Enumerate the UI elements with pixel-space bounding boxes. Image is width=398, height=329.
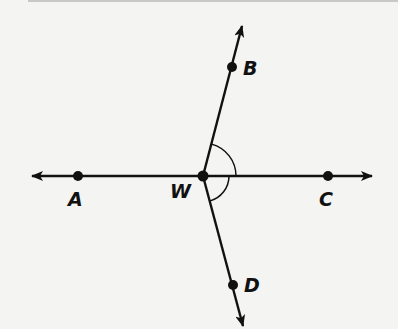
point-b (227, 62, 237, 72)
ray-wb (203, 26, 242, 176)
label-w: W (170, 180, 192, 202)
angle-arc-bwc (212, 144, 237, 176)
angle-arc-cwd (210, 176, 229, 201)
point-d (228, 280, 238, 290)
vertex-w (198, 171, 209, 182)
point-a (73, 171, 83, 181)
ray-wd (203, 176, 243, 326)
label-d: D (244, 274, 260, 296)
label-b: B (243, 57, 257, 79)
point-c (323, 171, 333, 181)
label-c: C (319, 188, 333, 210)
geometry-diagram: A B C D W (0, 0, 398, 329)
label-a: A (66, 188, 83, 210)
